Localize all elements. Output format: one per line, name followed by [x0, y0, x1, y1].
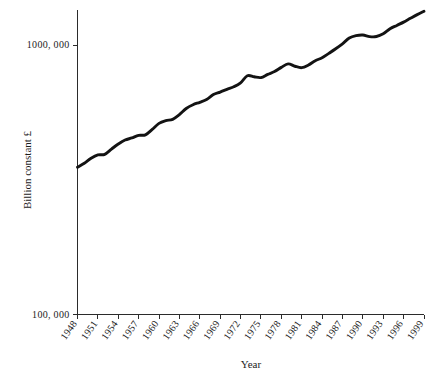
- y-tick-label: 1000, 000: [27, 39, 70, 50]
- y-tick-marks: [73, 45, 78, 315]
- x-tick-label: 1963: [160, 318, 181, 341]
- x-tick-label: 1960: [140, 318, 161, 341]
- y-tick-labels: 1000, 000100, 000: [27, 39, 70, 320]
- y-tick-label: 100, 000: [32, 309, 69, 320]
- x-tick-label: 1951: [79, 318, 100, 341]
- x-tick-label: 1981: [282, 318, 303, 341]
- x-axis-title: Year: [241, 358, 262, 370]
- series-line: [78, 11, 425, 167]
- x-tick-labels: 1948195119541957196019631966196919721975…: [58, 318, 425, 341]
- data-series-line: [78, 11, 425, 167]
- x-tick-label: 1990: [344, 318, 365, 341]
- x-tick-label: 1984: [303, 318, 324, 341]
- x-tick-label: 1972: [221, 318, 242, 341]
- x-tick-label: 1957: [119, 318, 140, 341]
- chart-container: 1000, 000100, 000 1948195119541957196019…: [0, 0, 435, 376]
- x-tick-label: 1975: [242, 318, 263, 341]
- x-tick-label: 1987: [323, 318, 344, 341]
- y-axis-title: Billion constant £: [21, 130, 33, 209]
- x-tick-label: 1954: [99, 318, 120, 341]
- x-tick-label: 1999: [405, 318, 426, 341]
- x-tick-label: 1993: [364, 318, 385, 341]
- x-tick-label: 1978: [262, 318, 283, 341]
- x-tick-label: 1948: [58, 318, 79, 341]
- line-chart: 1000, 000100, 000 1948195119541957196019…: [0, 0, 435, 376]
- x-tick-label: 1969: [201, 318, 222, 341]
- x-tick-label: 1996: [384, 318, 405, 341]
- x-tick-label: 1966: [180, 318, 201, 341]
- x-tick-marks: [78, 315, 425, 320]
